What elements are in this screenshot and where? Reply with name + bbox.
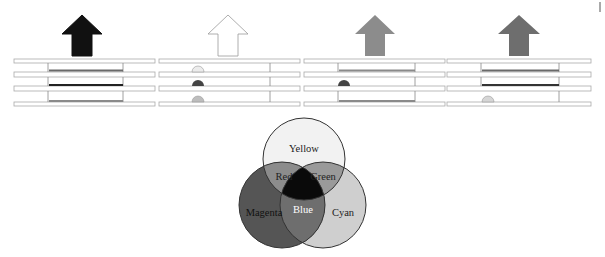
panel-1 <box>14 15 155 106</box>
label-blue: Blue <box>293 204 313 215</box>
label-yellow: Yellow <box>289 143 319 154</box>
label-cyan: Cyan <box>332 207 355 218</box>
bar-layer <box>482 84 559 86</box>
panel-3 <box>304 15 445 106</box>
venn-diagram: Yellow Red Green Magenta Blue Cyan <box>239 118 366 248</box>
bar-layer <box>339 70 415 72</box>
bar-layer <box>49 84 123 86</box>
panel-4 <box>447 15 591 106</box>
semicircle-droplet <box>482 96 494 102</box>
semicircle-droplet <box>192 66 204 72</box>
up-arrow-icon <box>498 15 540 56</box>
diagram-canvas: Yellow Red Green Magenta Blue Cyan <box>0 0 605 257</box>
semicircle-droplet <box>338 80 350 86</box>
bar-layer <box>339 100 415 102</box>
up-arrow-icon <box>62 15 102 56</box>
label-red: Red <box>276 171 294 182</box>
up-arrow-icon <box>355 15 395 56</box>
bar-layer <box>482 70 559 72</box>
plates <box>14 59 155 106</box>
label-magenta: Magenta <box>246 207 283 218</box>
panel-2 <box>159 15 300 106</box>
bar-layer <box>49 100 123 102</box>
up-arrow-icon <box>208 15 248 56</box>
semicircle-droplet <box>192 80 204 86</box>
label-green: Green <box>310 171 336 182</box>
semicircle-droplet <box>192 96 204 102</box>
bar-layer <box>49 70 123 72</box>
